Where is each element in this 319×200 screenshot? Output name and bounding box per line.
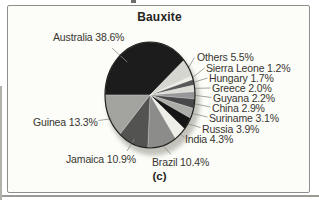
scan-artifact-line-left <box>0 86 2 200</box>
slice-label-jamaica: Jamaica 10.9% <box>66 153 136 165</box>
slice-label-guinea: Guinea 13.3% <box>33 116 98 128</box>
leader-line-others <box>189 58 195 68</box>
slice-label-australia: Australia 38.6% <box>53 31 124 43</box>
figure: Bauxite Australia 38.6% Others 5.5% Sier… <box>0 0 319 200</box>
scan-artifact-tick-top <box>131 0 136 3</box>
scan-artifact-line-bottom <box>0 195 319 197</box>
chart-title: Bauxite <box>0 10 319 24</box>
slice-label-india: India 4.3% <box>185 133 233 145</box>
panel-caption: (c) <box>0 170 319 182</box>
leader-line-sierra-leone <box>193 68 205 78</box>
slice-label-brazil: Brazil 10.4% <box>152 156 209 168</box>
